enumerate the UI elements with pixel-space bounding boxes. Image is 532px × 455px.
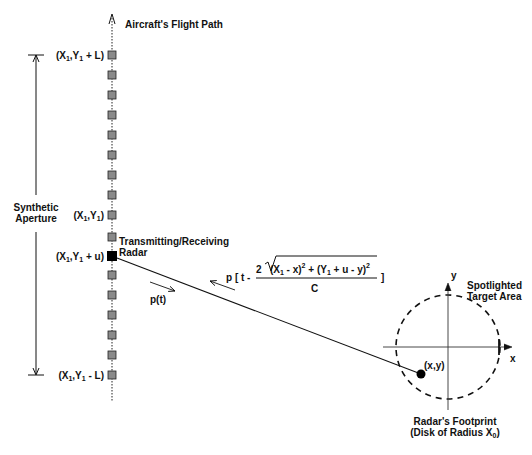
aperture-marker — [108, 351, 116, 359]
aperture-marker — [108, 371, 116, 379]
transmit-signal-label: p(t) — [150, 294, 166, 305]
aperture-marker — [108, 111, 116, 119]
target-point-label: (x,y) — [424, 360, 445, 371]
transmit-arrow-icon — [150, 282, 175, 291]
radar-position-marker — [107, 251, 117, 261]
target-area-label: Spotlighted Target Area — [467, 280, 522, 302]
flight-path-label: Aircraft's Flight Path — [125, 19, 223, 30]
aperture-marker — [108, 211, 116, 219]
aperture-marker — [108, 131, 116, 139]
echo-signal-lead: p [ t - — [226, 272, 250, 283]
position-bottom-label: (X1,Y1 - L) — [58, 370, 104, 384]
aperture-marker — [108, 311, 116, 319]
aperture-marker — [108, 271, 116, 279]
aperture-marker — [108, 191, 116, 199]
position-current-label: (X1,Y1 + u) — [56, 251, 104, 265]
radar-label: Transmitting/Receiving Radar — [119, 236, 229, 258]
aperture-marker — [108, 331, 116, 339]
synthetic-aperture-label: Synthetic Aperture — [12, 202, 60, 224]
echo-signal-numerator: 2 (X1 - x)2 + (Y1 + u - y)2 — [256, 260, 370, 278]
aperture-marker — [108, 91, 116, 99]
footprint-label: Radar's Footprint (Disk of Radius X0) — [395, 416, 515, 441]
axis-y-label: y — [451, 270, 457, 281]
aperture-marker — [108, 171, 116, 179]
position-top-label: (X1,Y1 + L) — [56, 50, 104, 64]
echo-signal-close: ] — [381, 272, 384, 283]
aperture-marker — [108, 151, 116, 159]
axis-x-label: x — [510, 353, 516, 364]
echo-signal-denominator: C — [311, 283, 318, 294]
sar-geometry-diagram — [0, 0, 532, 455]
aperture-marker — [108, 291, 116, 299]
aperture-marker — [108, 71, 116, 79]
x-axis-arrow-icon — [504, 344, 512, 350]
y-axis-arrow-icon — [445, 283, 451, 291]
position-center-label: (X1,Y1) — [73, 210, 104, 224]
aperture-marker — [108, 233, 116, 241]
aperture-marker — [108, 51, 116, 59]
